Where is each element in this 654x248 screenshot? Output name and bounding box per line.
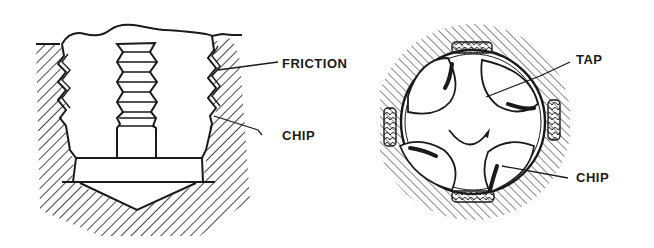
hole-top-edge (62, 25, 242, 44)
tap-friction-diagram (0, 0, 654, 248)
thread-patch-top (452, 42, 492, 53)
label-chip-left: CHIP (282, 129, 315, 142)
thread-patch-left (384, 108, 396, 146)
thread-patch-bottom (452, 191, 494, 202)
tap-base-block (73, 158, 203, 182)
label-tap: TAP (576, 53, 603, 66)
thread-patch-right (548, 100, 560, 140)
hole-section-view (36, 25, 278, 236)
tap-end-view (375, 24, 571, 220)
label-chip-right: CHIP (576, 171, 609, 184)
tap-shank (117, 43, 157, 158)
label-friction: FRICTION (282, 57, 347, 70)
